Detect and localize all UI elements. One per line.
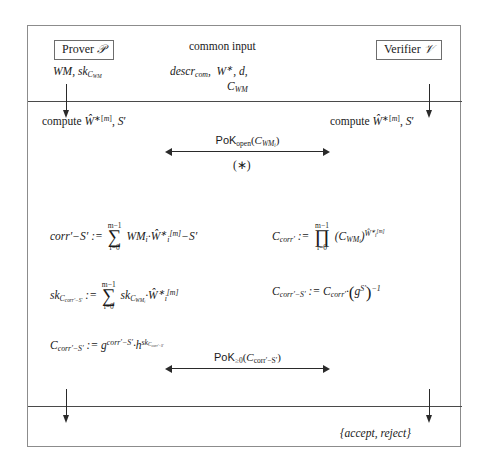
- verifier-symbol: 𝒱: [424, 42, 434, 56]
- verifier-formula-product: Ccorr′ := m−1∏i=0 (CWMi)Ŵ∗i[m]: [272, 222, 385, 252]
- phase-separator-top: [28, 101, 462, 102]
- protocol-diagram-frame: Prover 𝒫 Verifier 𝒱 WM, skCWM common inp…: [27, 25, 461, 447]
- product-icon: m−1∏i=0: [314, 222, 330, 252]
- arrow-shaft: [170, 368, 325, 369]
- phase-separator-bottom: [28, 406, 462, 407]
- summation-icon: m−1∑i=0: [102, 281, 116, 311]
- verifier-timeline-arrow-top: [425, 84, 434, 118]
- verifier-label-box: Verifier 𝒱: [376, 40, 442, 60]
- prover-formula-corr: corr′−S′ := m−1∑i=0 WMi·Ŵ∗i[m]−S′: [50, 222, 197, 252]
- prover-timeline-arrow-bottom: [62, 389, 71, 423]
- arrow-head-down-icon: [426, 110, 432, 118]
- prover-formula-commitment: Ccorr′−S′ := gcorr′−S′·hskCcorr′−S′: [50, 338, 164, 353]
- prover-symbol: 𝒫: [97, 42, 106, 56]
- arrow-shaft: [66, 84, 67, 111]
- arrow-shaft: [429, 389, 430, 416]
- prover-label-box: Prover 𝒫: [54, 40, 114, 60]
- arrow-shaft: [66, 389, 67, 416]
- common-input-line2: CWM: [227, 79, 248, 94]
- verifier-timeline-arrow-bottom: [425, 389, 434, 423]
- prover-formula-sk: skCcorr′−S′ := m−1∑i=0 skCWMi·Ŵ∗i[m]: [50, 281, 179, 311]
- verifier-formula-shift: Ccorr′−S′ := Ccorr′·(gS′)−1: [272, 284, 381, 300]
- summation-icon: m−1∑i=0: [108, 222, 122, 252]
- message-footnote-star: (∗): [233, 158, 251, 173]
- prover-timeline-arrow-top: [62, 84, 71, 118]
- message-label-pok-range: PoK≥0(Ccorr′−S′): [165, 351, 330, 363]
- arrow-shaft: [429, 84, 430, 111]
- prover-compute-step: compute Ŵ∗[m], S′: [42, 114, 126, 129]
- arrow-shaft: [170, 151, 325, 152]
- arrow-head-down-icon: [63, 415, 69, 423]
- prover-secret-input: WM, skCWM: [53, 64, 102, 79]
- arrow-head-right-icon: [323, 148, 330, 156]
- message-arrow-pok-range: PoK≥0(Ccorr′−S′): [165, 364, 330, 373]
- common-input-line1: descrcom, W∗, d,: [170, 64, 248, 79]
- arrow-head-right-icon: [323, 365, 330, 373]
- arrow-head-down-icon: [426, 415, 432, 423]
- message-arrow-pok-open: PoKopen(CWMi): [165, 147, 330, 156]
- verifier-compute-step: compute Ŵ∗[m], S′: [330, 114, 414, 129]
- verifier-verdict: {accept, reject}: [340, 426, 411, 441]
- common-input-title: common input: [189, 39, 256, 54]
- message-label-pok-open: PoKopen(CWMi): [165, 134, 330, 146]
